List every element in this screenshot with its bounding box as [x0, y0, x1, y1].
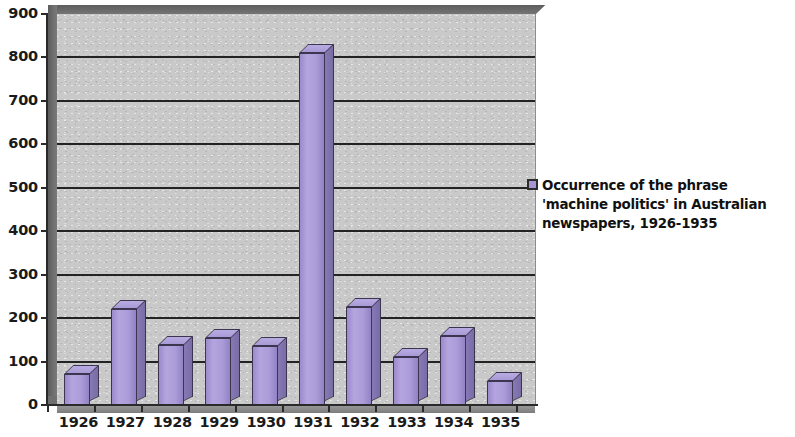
bar-front-face [205, 338, 231, 405]
bar-1934 [440, 336, 466, 406]
bar-front-face [64, 374, 90, 405]
bar-1928 [158, 345, 184, 405]
y-axis-tick-label: 800 [0, 49, 38, 64]
chart-legend: Occurrence of the phrase 'machine politi… [527, 176, 777, 233]
y-axis-tick [41, 143, 47, 145]
x-axis-tick [328, 406, 330, 412]
bars-layer [48, 5, 536, 415]
y-axis-tick-label: 300 [0, 267, 38, 282]
bar-side-face [137, 301, 146, 401]
x-axis-tick-label: 1931 [290, 414, 337, 431]
y-axis-tick [41, 187, 47, 189]
y-axis-tick-label: 700 [0, 93, 38, 108]
x-axis-tick-label: 1935 [477, 414, 524, 431]
bar-side-face [372, 299, 381, 401]
y-axis-tick-label: 0 [0, 397, 38, 412]
y-axis-tick-label: 600 [0, 136, 38, 151]
y-axis-tick [41, 361, 47, 363]
bar-front-face [158, 345, 184, 405]
legend-swatch-icon [527, 179, 538, 190]
bar-front-face [346, 307, 372, 405]
x-axis-tick-label: 1929 [196, 414, 243, 431]
x-axis-tick [94, 406, 96, 412]
x-axis-tick [235, 406, 237, 412]
x-axis-tick-label: 1926 [55, 414, 102, 431]
x-axis-tick-label: 1934 [430, 414, 477, 431]
y-axis-tick [41, 274, 47, 276]
x-axis-tick-label: 1927 [102, 414, 149, 431]
y-axis-tick-label: 100 [0, 354, 38, 369]
bar-side-face [231, 329, 240, 401]
legend-entry-label: Occurrence of the phrase 'machine politi… [542, 176, 774, 233]
bar-1926 [64, 374, 90, 405]
x-axis-tick [188, 406, 190, 412]
bar-1933 [393, 357, 419, 405]
bar-1935 [487, 381, 513, 405]
bar-front-face [111, 309, 137, 405]
y-axis-tick-label: 200 [0, 310, 38, 325]
bar-front-face [299, 53, 325, 405]
y-axis-labels: 9008007006005004003002001000 [0, 0, 38, 420]
x-axis-labels: 1926192719281929193019311932193319341935 [40, 414, 540, 437]
bar-side-face [325, 45, 334, 401]
x-axis-tick [469, 406, 471, 412]
y-axis-tick-label: 900 [0, 6, 38, 21]
x-axis-tick-label: 1932 [336, 414, 383, 431]
x-axis-tick [516, 406, 518, 412]
y-axis-tick [41, 13, 47, 15]
y-axis-tick-label: 500 [0, 180, 38, 195]
bar-side-face [278, 338, 287, 401]
x-axis-tick [375, 406, 377, 412]
bar-1930 [252, 346, 278, 405]
x-axis-tick-label: 1930 [243, 414, 290, 431]
x-axis-tick-label: 1933 [383, 414, 430, 431]
y-axis-tick [41, 100, 47, 102]
x-axis-tick [47, 406, 49, 412]
bar-side-face [419, 349, 428, 401]
bar-1931 [299, 53, 325, 405]
bar-1927 [111, 309, 137, 405]
x-axis-tick [282, 406, 284, 412]
bar-front-face [252, 346, 278, 405]
bar-side-face [466, 327, 475, 401]
bar-1932 [346, 307, 372, 405]
y-axis-tick [41, 56, 47, 58]
bar-front-face [440, 336, 466, 406]
bar-front-face [393, 357, 419, 405]
x-axis-line [46, 404, 538, 406]
x-axis-tick-label: 1928 [149, 414, 196, 431]
bar-1929 [205, 338, 231, 405]
bar-side-face [184, 337, 193, 401]
y-axis-tick-label: 400 [0, 223, 38, 238]
x-axis-tick [422, 406, 424, 412]
y-axis-tick [41, 230, 47, 232]
bar-front-face [487, 381, 513, 405]
x-axis-tick [141, 406, 143, 412]
y-axis-tick [41, 317, 47, 319]
bar-chart: 9008007006005004003002001000 19261927192… [0, 0, 795, 437]
